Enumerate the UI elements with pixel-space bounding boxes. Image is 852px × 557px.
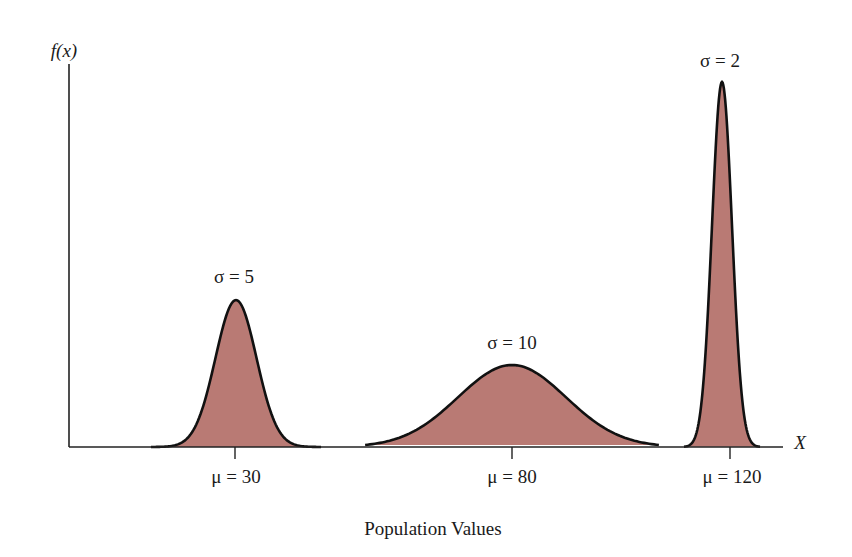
sd-label-10: σ = 10: [487, 332, 536, 354]
x-axis-symbol: X: [794, 432, 806, 454]
sd-label-2: σ = 2: [700, 50, 740, 72]
mean-label-120: μ = 120: [703, 466, 762, 488]
curve-fill-sd2: [684, 82, 760, 447]
y-axis-label: f(x): [51, 40, 77, 62]
x-axis-title: Population Values: [364, 518, 501, 540]
sd-label-5: σ = 5: [214, 266, 254, 288]
distribution-curves: [151, 82, 760, 447]
mean-label-30: μ = 30: [211, 466, 260, 488]
curve-fill-sd5: [151, 300, 321, 447]
mean-label-80: μ = 80: [487, 466, 536, 488]
